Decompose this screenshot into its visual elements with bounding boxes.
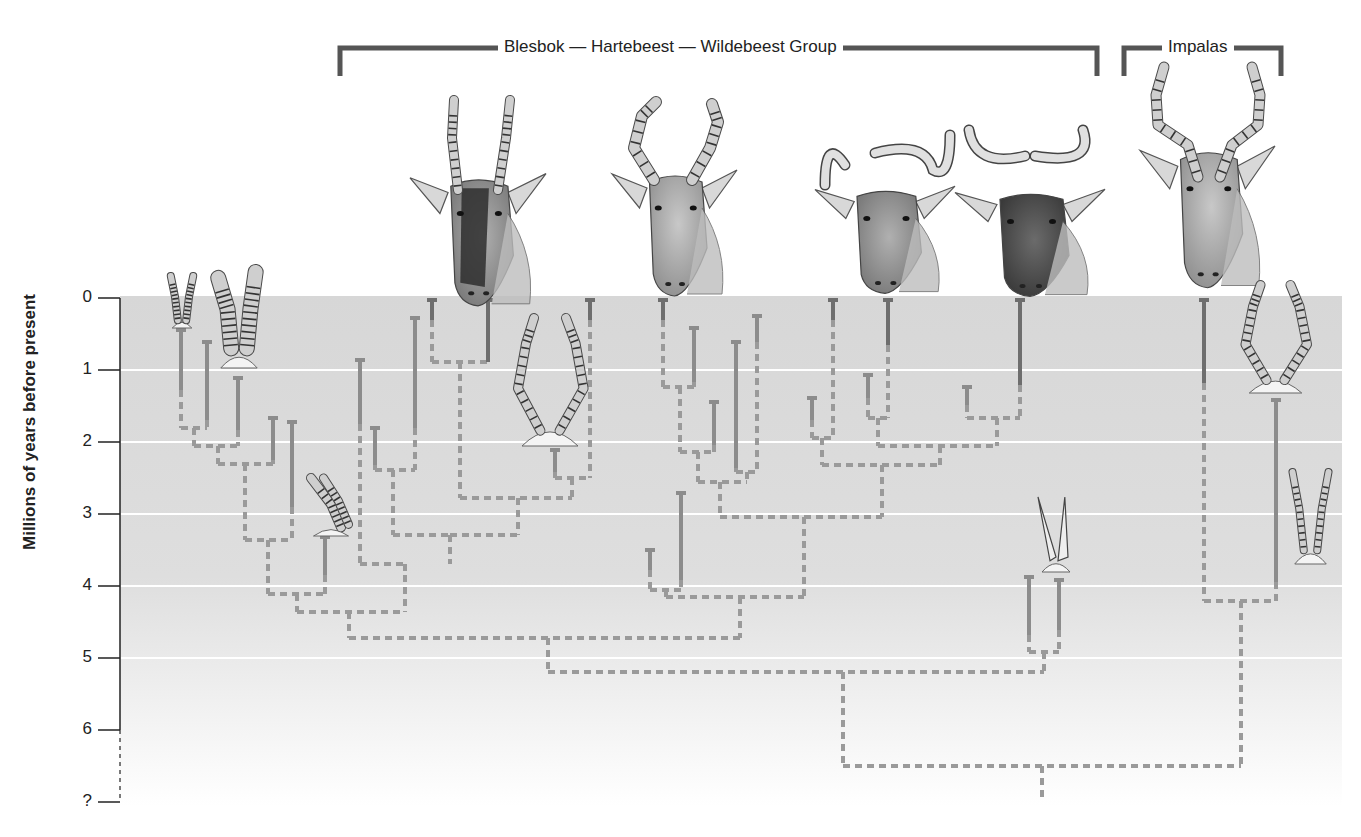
y-axis [98,298,120,802]
species-illustrations [410,67,1275,306]
y-tick-label: 1 [62,360,92,378]
blue-wildebeest-head [955,130,1105,296]
blesbok-head [410,100,546,306]
y-tick-label: 3 [62,504,92,522]
impala-head [1140,67,1275,288]
hartebeest-head [612,102,737,296]
group-label-impalas: Impalas [1162,37,1234,57]
y-axis-title: Millions of years before present [20,294,40,550]
y-tick-label: 0 [62,288,92,306]
phylogeny-canvas [0,0,1361,837]
group-label-blesbok-hartebeest-wildebeest: Blesbok — Hartebeest — Wildebeest Group [498,37,843,57]
y-tick-label: 6 [62,720,92,738]
time-panel-background [120,296,1342,806]
y-tick-label: 5 [62,648,92,666]
y-tick-label: 4 [62,576,92,594]
y-tick-label: 2 [62,432,92,450]
phylogeny-figure: Millions of years before present 0123456… [0,0,1361,837]
y-tick-label: ? [62,792,92,810]
black-wildebeest-head [815,135,955,293]
